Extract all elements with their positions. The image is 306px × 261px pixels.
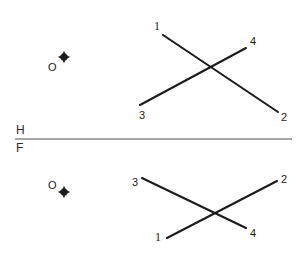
- fold-line-label-f: F: [16, 142, 23, 154]
- geometry-canvas: [0, 0, 306, 261]
- front-view-point-o-marker: [58, 186, 70, 198]
- top-view-line-1-2: [163, 35, 278, 112]
- front-view-label-1: 1: [155, 231, 161, 243]
- front-view-line-1-2: [167, 181, 277, 238]
- top-view-line-3-4: [140, 48, 246, 105]
- top-view-label-1: 1: [154, 20, 160, 32]
- top-view-group: [58, 35, 278, 112]
- front-view-line-3-4: [142, 178, 246, 228]
- top-view-label-2: 2: [281, 112, 287, 123]
- drawing-sheet: H F O 1 2 3 4 O 3 4 1 2: [0, 0, 306, 261]
- front-view-group: [58, 178, 277, 238]
- front-view-label-4: 4: [250, 228, 256, 239]
- front-view-label-3: 3: [132, 177, 138, 188]
- top-view-label-3: 3: [139, 110, 145, 121]
- top-view-point-o-marker: [58, 51, 70, 63]
- top-view-point-o-label: O: [48, 62, 57, 73]
- fold-line-label-h: H: [16, 124, 25, 136]
- front-view-label-2: 2: [281, 174, 287, 185]
- front-view-point-o-label: O: [48, 180, 57, 191]
- top-view-label-4: 4: [250, 36, 256, 47]
